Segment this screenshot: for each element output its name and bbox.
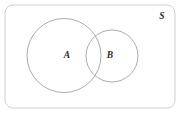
set-a-label: A: [63, 50, 70, 60]
set-b-label: B: [106, 50, 113, 60]
venn-diagram-canvas: A B S: [0, 0, 181, 114]
universal-set-label: S: [159, 11, 164, 21]
universal-set-rectangle: [5, 5, 175, 108]
venn-diagram-figure: A B S: [0, 0, 181, 114]
